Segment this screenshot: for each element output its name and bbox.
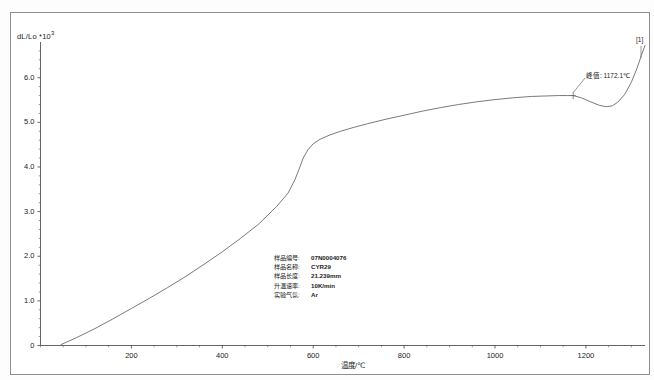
x-tick-label: 200 — [116, 351, 146, 360]
axis-minor-ticks — [39, 51, 632, 347]
y-tick-label: 6.0 — [17, 73, 35, 82]
sample-info-value: 10K/min — [311, 281, 335, 290]
x-tick-label: 800 — [389, 351, 419, 360]
y-axis-label-exponent: 3 — [51, 30, 55, 36]
sample-info-value: Ar — [311, 290, 318, 299]
dilatometry-chart-svg — [0, 0, 654, 380]
sample-info-value: 21.239mm — [311, 271, 341, 280]
screenshot-page: dL/Lo *103 温度/℃ 01.02.03.04.05.06.0 2004… — [0, 0, 654, 380]
sample-info-value: 07N0004076 — [311, 253, 346, 262]
peak-leader-line — [573, 78, 585, 93]
y-tick-label: 5.0 — [17, 117, 35, 126]
sample-info-row: 升温速率:10K/min — [274, 281, 346, 290]
sample-info-row: 样品编号:07N0004076 — [274, 253, 346, 262]
y-tick-label: 1.0 — [17, 296, 35, 305]
peak-marker-icon — [571, 92, 576, 99]
y-tick-label: 2.0 — [17, 251, 35, 260]
sample-info-row: 样品名称:CYR29 — [274, 262, 346, 271]
sample-info-row: 样品长度:21.239mm — [274, 271, 346, 280]
sample-info-key: 实验气氛: — [274, 290, 311, 299]
x-axis-label: 温度/℃ — [341, 359, 366, 370]
sample-info-key: 样品长度: — [274, 271, 311, 280]
sample-info-key: 样品编号: — [274, 253, 311, 262]
y-tick-label: 4.0 — [17, 162, 35, 171]
y-tick-label: 0 — [17, 341, 35, 350]
y-axis-label-text: dL/Lo *10 — [17, 32, 51, 41]
sample-info-key: 升温速率: — [274, 281, 311, 290]
chart-plot-area: dL/Lo *103 温度/℃ 01.02.03.04.05.06.0 2004… — [0, 0, 654, 380]
sample-info-panel: 样品编号:07N0004076样品名称:CYR29样品长度:21.239mm升温… — [274, 253, 346, 299]
y-axis-label: dL/Lo *103 — [17, 30, 54, 41]
sample-info-row: 实验气氛:Ar — [274, 290, 346, 299]
x-tick-label: 1200 — [571, 351, 601, 360]
x-tick-label: 600 — [298, 351, 328, 360]
sample-info-value: CYR29 — [311, 262, 331, 271]
y-tick-label: 3.0 — [17, 207, 35, 216]
curve-index-label: [1] — [636, 36, 643, 43]
dilatation-curve — [61, 46, 645, 345]
x-tick-label: 400 — [207, 351, 237, 360]
peak-annotation-label: 峰值: 1172.1℃ — [586, 70, 630, 80]
x-tick-label: 1000 — [480, 351, 510, 360]
sample-info-key: 样品名称: — [274, 262, 311, 271]
